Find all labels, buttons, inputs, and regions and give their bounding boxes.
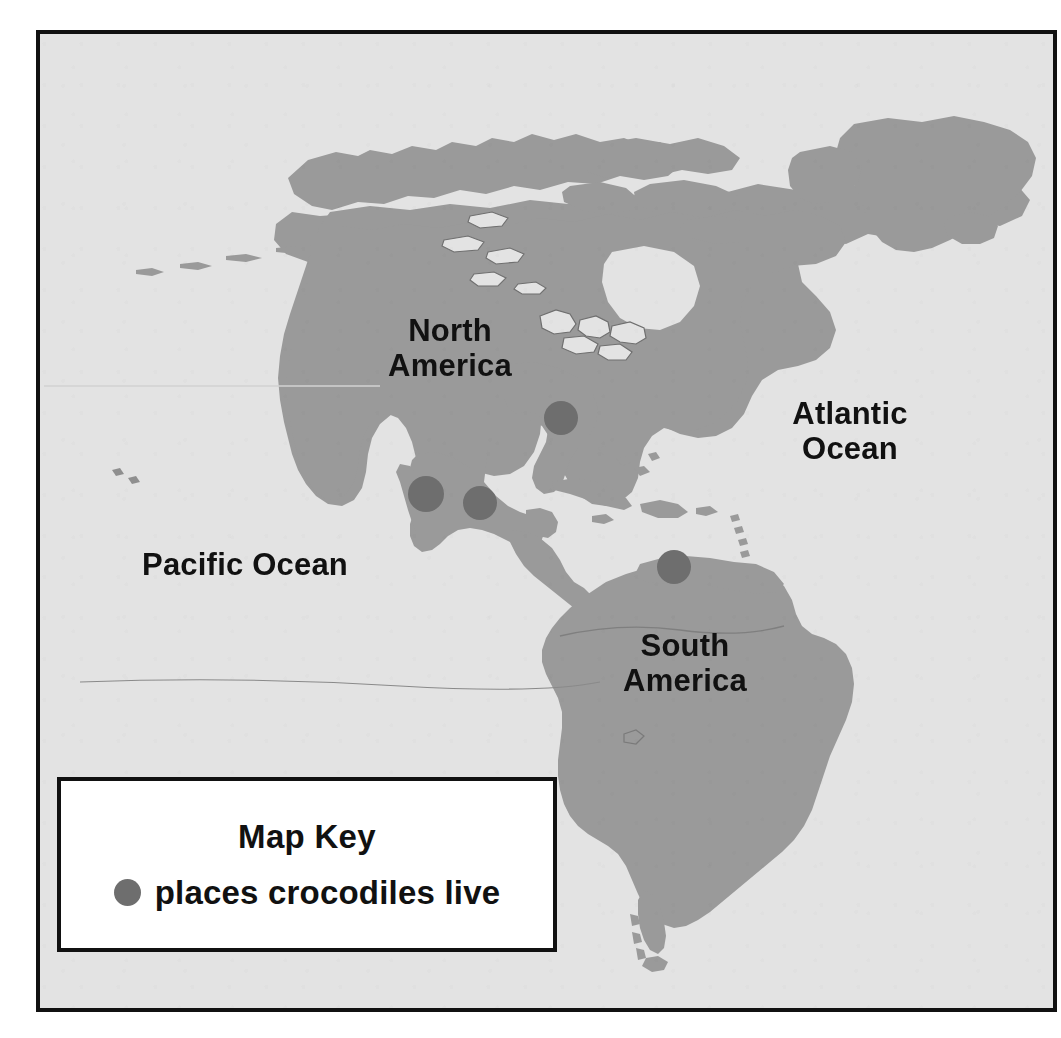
marker-florida[interactable]	[544, 401, 578, 435]
aleutian-islands	[136, 246, 310, 276]
map-key-entry-label: places crocodiles live	[155, 874, 501, 912]
marker-west-mexico[interactable]	[408, 476, 444, 512]
south-america-landmass	[542, 562, 854, 928]
tierra-del-fuego	[642, 956, 668, 972]
map-frame: North America Atlantic Ocean Pacific Oce…	[36, 30, 1057, 1012]
hawaii-islands	[112, 468, 140, 484]
marker-yucatan[interactable]	[463, 486, 497, 520]
map-key-dot-icon	[114, 879, 141, 906]
label-north-america: North America	[350, 314, 550, 383]
marker-northern-south-america[interactable]	[657, 550, 691, 584]
label-pacific-ocean: Pacific Ocean	[85, 548, 405, 583]
map-key-title: Map Key	[238, 818, 376, 856]
label-atlantic-ocean: Atlantic Ocean	[740, 397, 960, 466]
map-key-box: Map Key places crocodiles live	[57, 777, 557, 952]
map-key-entry: places crocodiles live	[114, 874, 501, 912]
river-line-secondary	[80, 680, 600, 689]
label-south-america: South America	[580, 629, 790, 698]
